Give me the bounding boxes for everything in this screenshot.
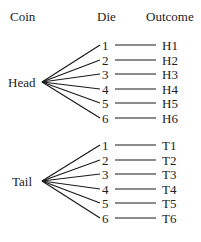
branch-line [42,74,100,82]
outcome-node: T5 [162,197,176,210]
die-node: 6 [102,112,109,125]
coin-node-head: Head [8,76,35,89]
die-node: 1 [102,139,109,152]
die-node: 1 [102,39,109,52]
die-node: 4 [102,83,109,96]
outcome-node: H2 [162,54,178,67]
die-node: 2 [102,54,109,67]
outcome-node: T4 [162,183,176,196]
die-node: 6 [102,212,109,225]
outcome-node: T1 [162,139,176,152]
outcome-node: H6 [162,112,178,125]
coin-node-tail: Tail [12,175,32,188]
die-node: 3 [102,168,109,181]
outcome-node: T3 [162,168,176,181]
outcome-node: H3 [162,68,178,81]
outcome-node: T2 [162,154,176,167]
outcome-node: H1 [162,39,178,52]
die-node: 5 [102,197,109,210]
outcome-node: T6 [162,212,176,225]
die-node: 3 [102,68,109,81]
branch-line [42,181,100,189]
header-coin: Coin [10,10,35,23]
header-die: Die [97,10,116,23]
outcome-node: H4 [162,83,178,96]
outcome-node: H5 [162,97,178,110]
die-node: 5 [102,97,109,110]
die-node: 2 [102,154,109,167]
die-node: 4 [102,183,109,196]
header-outcome: Outcome [146,10,194,23]
